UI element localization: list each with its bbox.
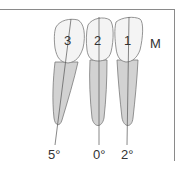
tooth-number-3: 3 <box>64 34 71 47</box>
teeth-diagram <box>0 0 180 170</box>
tooth-number-1: 1 <box>124 34 131 47</box>
tooth-number-2: 2 <box>94 34 101 47</box>
angle-label-tooth-3: 5° <box>48 148 60 161</box>
angle-label-tooth-2: 0° <box>93 148 105 161</box>
mesial-label: M <box>150 37 161 50</box>
angle-label-tooth-1: 2° <box>121 148 133 161</box>
